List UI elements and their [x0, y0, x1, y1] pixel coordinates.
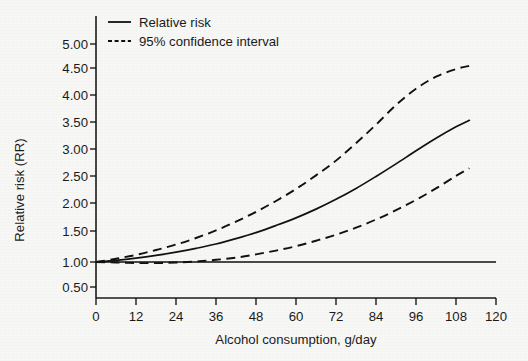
- x-tick-label: 108: [445, 309, 467, 324]
- relative-risk-curve: [96, 120, 469, 262]
- chart-legend: Relative risk 95% confidence interval: [108, 15, 279, 49]
- y-tick-label: 3.50: [62, 115, 88, 130]
- y-tick-label: 1.50: [62, 224, 88, 239]
- ci-lower-curve: [96, 168, 469, 263]
- chart-figure: Relative risk (RR) 5.00 4.50 4.00 3.50 3…: [0, 0, 528, 361]
- x-tick-label: 96: [409, 309, 424, 324]
- y-tick-labels: 5.00 4.50 4.00 3.50 3.00 2.50 2.00 1.50 …: [62, 37, 88, 295]
- y-axis-title: Relative risk (RR): [12, 138, 27, 241]
- legend-label-relative-risk: Relative risk: [139, 15, 211, 30]
- x-tick-label: 60: [289, 309, 304, 324]
- y-tick-label: 5.00: [62, 37, 88, 52]
- x-tick-label: 48: [249, 309, 264, 324]
- y-axis: [90, 16, 96, 298]
- x-axis: [96, 298, 496, 305]
- x-tick-label: 12: [129, 309, 144, 324]
- x-tick-label: 72: [329, 309, 344, 324]
- x-tick-label: 84: [369, 309, 384, 324]
- y-axis-title-text: Relative risk (RR): [12, 138, 27, 241]
- y-tick-label: 2.50: [62, 169, 88, 184]
- x-tick-label: 120: [485, 309, 507, 324]
- x-axis-title-text: Alcohol consumption, g/day: [215, 332, 377, 347]
- ci-upper-curve: [96, 66, 469, 262]
- x-tick-label: 36: [209, 309, 224, 324]
- y-tick-label: 0.50: [62, 280, 88, 295]
- y-tick-label: 2.00: [62, 196, 88, 211]
- y-tick-label: 3.00: [62, 142, 88, 157]
- y-tick-label: 4.50: [62, 61, 88, 76]
- relative-risk-line-chart: Relative risk (RR) 5.00 4.50 4.00 3.50 3…: [0, 0, 528, 361]
- x-tick-label: 24: [169, 309, 184, 324]
- data-curves: [96, 66, 496, 263]
- x-tick-label: 0: [92, 309, 99, 324]
- legend-label-confidence-interval: 95% confidence interval: [139, 34, 279, 49]
- y-tick-label: 4.00: [62, 88, 88, 103]
- x-tick-labels: 0 12 24 36 48 60 72 84 96 108 120: [92, 309, 507, 324]
- y-tick-label: 1.00: [62, 255, 88, 270]
